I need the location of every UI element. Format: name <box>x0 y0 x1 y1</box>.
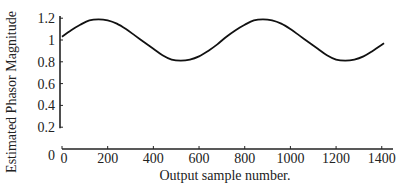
x-axis-label: Output sample number. <box>159 168 290 183</box>
y-tick-label: 0 <box>48 148 55 163</box>
x-tick-label: 800 <box>234 151 255 166</box>
y-axis: 00.20.40.60.811.2 <box>38 11 64 163</box>
series-line <box>62 19 384 60</box>
x-tick-label: 1200 <box>322 151 350 166</box>
y-tick-label: 0.8 <box>38 55 56 70</box>
x-tick-label: 0 <box>61 151 68 166</box>
y-tick-label: 0.4 <box>38 98 56 113</box>
plot-area <box>62 19 384 60</box>
y-tick-label: 1.2 <box>38 11 56 26</box>
y-tick-label: 1 <box>48 33 55 48</box>
x-tick-label: 1400 <box>368 151 396 166</box>
x-tick-label: 200 <box>97 151 118 166</box>
y-tick-label: 0.6 <box>38 77 56 92</box>
x-tick-label: 1000 <box>276 151 304 166</box>
line-chart: Estimated Phasor Magnitude Output sample… <box>0 0 415 188</box>
y-axis-title: Estimated Phasor Magnitude <box>4 11 19 173</box>
x-tick-label: 400 <box>143 151 164 166</box>
x-tick-label: 600 <box>189 151 210 166</box>
y-tick-label: 0.2 <box>38 120 56 135</box>
y-axis-label: Estimated Phasor Magnitude <box>4 11 19 173</box>
x-axis: 0200400600800100012001400 <box>61 146 396 166</box>
